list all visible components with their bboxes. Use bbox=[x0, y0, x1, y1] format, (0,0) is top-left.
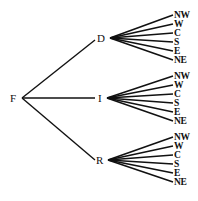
node-r: R bbox=[96, 155, 103, 165]
tree-diagram: F D I R NW W C S E NE NW W C S E NE NW W… bbox=[0, 0, 198, 201]
leaf-r-ne: NE bbox=[174, 177, 187, 187]
node-i: I bbox=[98, 93, 102, 103]
leaf-i-ne: NE bbox=[174, 116, 187, 126]
node-root-f: F bbox=[10, 93, 16, 103]
leaf-d-ne: NE bbox=[174, 55, 187, 65]
node-d: D bbox=[97, 33, 105, 43]
